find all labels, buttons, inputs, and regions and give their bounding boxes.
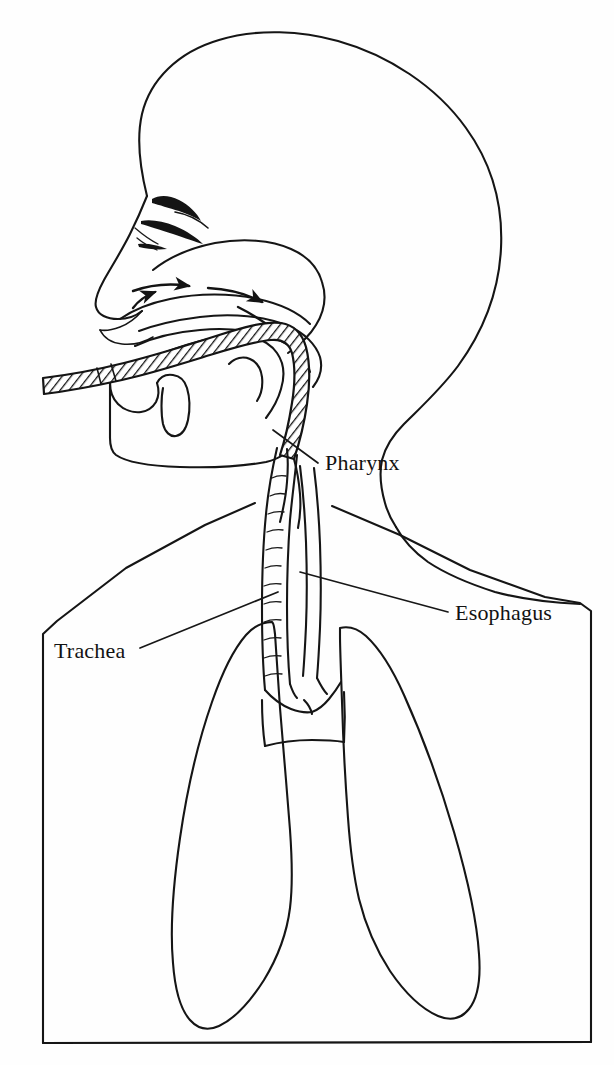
anatomy-illustration: Pharynx Esophagus Trachea	[0, 0, 614, 1065]
label-trachea: Trachea	[54, 638, 125, 663]
right-lung	[340, 627, 480, 1018]
thorax-frame	[43, 503, 591, 1043]
anatomy-figure: Pharynx Esophagus Trachea	[0, 0, 614, 1065]
inserted-tube	[43, 323, 309, 459]
trachea-tube	[262, 448, 297, 690]
bronchi-bifurcation	[262, 678, 345, 746]
leader-trachea	[140, 592, 278, 648]
nose-and-nostril	[95, 196, 208, 344]
left-lung	[172, 622, 292, 1029]
label-esophagus: Esophagus	[455, 600, 552, 625]
neck-back-profile	[396, 527, 580, 604]
leader-esophagus	[300, 572, 448, 612]
label-pharynx: Pharynx	[325, 450, 400, 475]
figure-labels: Pharynx Esophagus Trachea	[54, 450, 552, 663]
